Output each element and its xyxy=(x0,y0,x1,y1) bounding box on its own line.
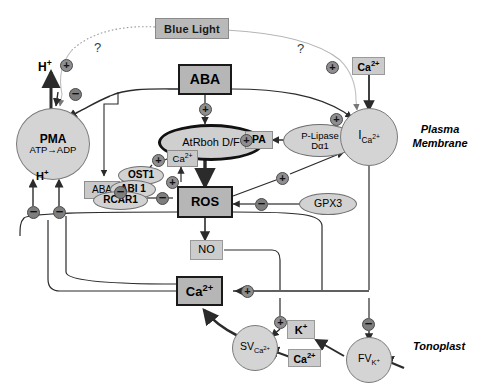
mod-aba-pma: − xyxy=(69,88,82,101)
ca-box-cytosol[interactable]: Ca2+ xyxy=(176,276,223,306)
ca-atrboh-label: Ca2+ xyxy=(173,152,193,164)
pma-sublabel: ATP→ADP xyxy=(30,145,77,155)
sv-ca-channel[interactable]: SVCa2+ xyxy=(232,325,278,371)
mod-gpx3-ros: − xyxy=(255,198,268,211)
ca-cytosol-label: Ca2+ xyxy=(186,284,213,299)
ca-box-vacuole[interactable]: Ca2+ xyxy=(288,349,321,367)
mod-ost1-ca: + xyxy=(152,154,165,167)
mod-pa-activation: + xyxy=(240,134,253,147)
ros-label: ROS xyxy=(191,195,219,209)
mod-aba-atrboh: + xyxy=(199,103,212,116)
blue-light-label: Blue Light xyxy=(155,18,229,39)
pa-label: PA xyxy=(252,134,266,145)
h-plus-efflux-label: H+ xyxy=(38,58,52,74)
question-mark-left: ? xyxy=(94,40,101,55)
h-plus-influx-label: H+ xyxy=(36,168,49,182)
sv-ca-label: SVCa2+ xyxy=(240,341,270,355)
tonoplast-label: Tonoplast xyxy=(404,340,474,354)
mod-pma-inhibit-right: − xyxy=(53,206,66,219)
fv-k-channel[interactable]: FVK+ xyxy=(346,337,392,383)
mod-bluelight-pma: + xyxy=(60,59,73,72)
k-plus-label: K+ xyxy=(295,323,308,336)
i-ca-channel[interactable]: ICa2+ xyxy=(340,108,398,166)
ca-extracellular-label: Ca2+ xyxy=(357,60,379,73)
k-plus-box[interactable]: K+ xyxy=(287,320,315,339)
ca-vacuole-label: Ca2+ xyxy=(293,352,315,365)
mod-bluelight-ica: + xyxy=(326,61,339,74)
gpx3-peroxidase[interactable]: GPX3 xyxy=(299,193,357,215)
mod-sv-ca: + xyxy=(274,316,287,329)
diagram-canvas: Blue Light ? ? H+ PMA ATP→ADP H+ ABA AtR… xyxy=(0,0,480,391)
pma-pump[interactable]: PMA ATP→ADP xyxy=(16,108,90,180)
blue-light-text: Blue Light xyxy=(164,23,220,35)
question-mark-right: ? xyxy=(297,41,304,56)
i-ca-label: ICa2+ xyxy=(358,129,380,144)
p-lipase-line1: P-Lipase xyxy=(301,131,339,141)
mod-aba-ica: + xyxy=(330,113,343,126)
plasma-membrane-label: Plasma Membrane xyxy=(404,123,476,151)
mod-ros-ca-gate: + xyxy=(166,176,179,189)
mod-ros-ica: + xyxy=(276,172,289,185)
mod-pma-inhibit-left: − xyxy=(27,206,40,219)
aba-top-label: ABA xyxy=(190,72,220,87)
mod-rcar1-abi1: − xyxy=(114,186,127,199)
ros-box[interactable]: ROS xyxy=(177,186,233,218)
mod-ca-release: + xyxy=(241,285,254,298)
no-label: NO xyxy=(198,244,215,256)
gpx3-label: GPX3 xyxy=(314,198,342,209)
atrboh-label: AtRboh D/F xyxy=(182,137,239,149)
p-lipase-line2: Dα1 xyxy=(311,141,329,151)
mod-abi1-ros: − xyxy=(156,192,169,205)
ca-box-extracellular[interactable]: Ca2+ xyxy=(352,57,385,75)
no-box[interactable]: NO xyxy=(190,240,223,260)
ca-box-atrboh[interactable]: Ca2+ xyxy=(167,150,198,167)
fv-k-label: FVK+ xyxy=(358,353,380,367)
mod-fv-k: − xyxy=(362,318,375,331)
aba-box-top[interactable]: ABA xyxy=(178,64,232,95)
